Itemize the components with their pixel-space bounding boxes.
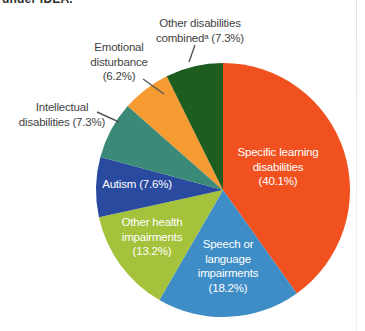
figure-pie-chart-disabilities: under IDEA. Specific learningdisabilitie… <box>0 0 365 331</box>
pie-chart <box>0 0 365 331</box>
leader-line-other-disabilities-combined <box>189 45 195 62</box>
leader-line-intellectual-disabilities <box>97 112 119 122</box>
